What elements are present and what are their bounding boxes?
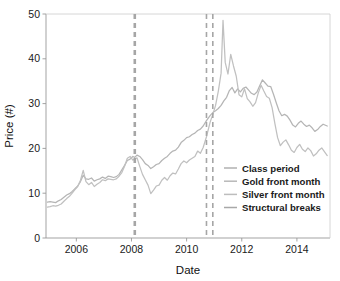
- y-axis-title: Price (#): [3, 104, 15, 148]
- structural-breaks-group: [135, 14, 213, 238]
- x-axis-title: Date: [176, 264, 200, 276]
- x-tick-label: 2006: [65, 243, 89, 255]
- x-tick-label: 2008: [120, 243, 144, 255]
- x-tick-label: 2010: [175, 243, 199, 255]
- y-tick-label: 30: [28, 97, 40, 109]
- tick-labels-group: 0102030405020062008201020122014: [28, 8, 308, 255]
- price-time-series-chart: 0102030405020062008201020122014 Class pe…: [0, 0, 340, 281]
- legend-label: Structural breaks: [242, 202, 321, 213]
- x-tick-label: 2014: [285, 243, 309, 255]
- legend-label: Gold front month: [242, 176, 320, 187]
- y-tick-label: 20: [28, 142, 40, 154]
- y-tick-label: 50: [28, 8, 40, 20]
- x-tick-label: 2012: [230, 243, 254, 255]
- chart-figure: 0102030405020062008201020122014 Class pe…: [0, 0, 340, 281]
- y-tick-label: 10: [28, 187, 40, 199]
- legend-label: Silver front month: [242, 189, 325, 200]
- y-tick-label: 40: [28, 52, 40, 64]
- y-tick-label: 0: [34, 232, 40, 244]
- legend-label: Class period: [242, 163, 300, 174]
- chart-legend: Class periodGold front monthSilver front…: [224, 163, 325, 214]
